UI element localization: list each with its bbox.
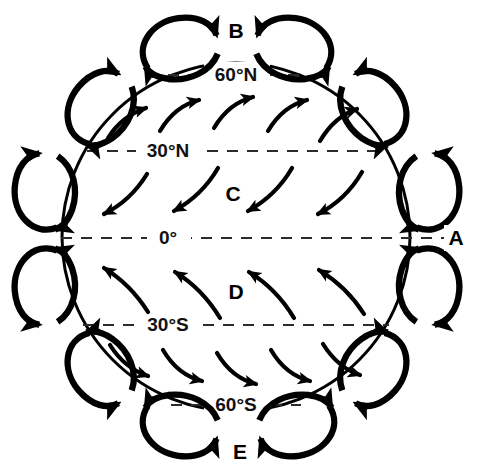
latitude-label-30n: 30°N [147, 140, 189, 161]
circulation-cell-hadley-south-right [398, 247, 461, 325]
circulation-diagram: 60°N 30°N 0° 30°S 60°S [0, 0, 477, 475]
circulation-cell-hadley-south-left [13, 247, 76, 325]
zone-label-a: A [448, 226, 463, 249]
latitude-label-30s: 30°S [147, 314, 188, 335]
latitude-label-equator: 0° [159, 227, 177, 248]
zone-label-b: B [228, 19, 243, 42]
zone-label-d: D [228, 280, 243, 303]
circulation-cell-hadley-north-right [398, 153, 461, 231]
globe-outline [62, 63, 410, 411]
zone-label-e: E [233, 440, 247, 463]
latitude-label-60n: 60°N [215, 64, 257, 85]
latitude-label-60s: 60°S [215, 394, 256, 415]
diagram-canvas: 60°N 30°N 0° 30°S 60°S [0, 0, 477, 475]
zone-label-c: C [225, 182, 240, 205]
